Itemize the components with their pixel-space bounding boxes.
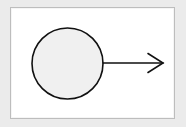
arrow-icon: [103, 54, 163, 73]
circle-node: [32, 28, 103, 99]
diagram-canvas: [0, 0, 186, 127]
diagram-svg: [0, 0, 186, 127]
